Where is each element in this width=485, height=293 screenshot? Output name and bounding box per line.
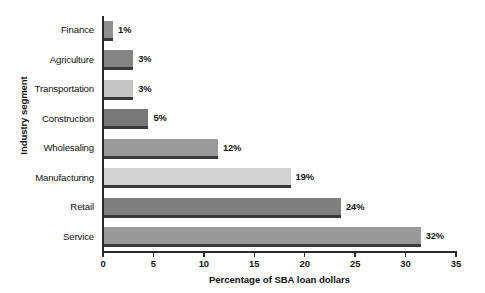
plot-area: 1%3%3%5%12%19%24%32% [103, 16, 456, 252]
bar-service [103, 227, 421, 247]
bar-fill [103, 109, 148, 126]
x-tick-20 [304, 252, 305, 257]
bar-transportation [103, 80, 133, 100]
x-tick-15 [254, 252, 255, 257]
bar-shadow [103, 215, 341, 218]
x-tick-label-5: 5 [151, 258, 156, 269]
bar-fill [103, 80, 133, 97]
bar-value-label-transportation: 3% [138, 84, 151, 94]
category-label-wholesaling: Wholesaling [0, 143, 94, 153]
x-tick-label-0: 0 [100, 258, 105, 269]
bar-construction [103, 109, 148, 129]
bar-shadow [103, 185, 291, 188]
bar-shadow [103, 67, 133, 70]
bar-value-label-wholesaling: 12% [223, 143, 241, 153]
y-axis-line [102, 16, 104, 252]
bar-agriculture [103, 50, 133, 70]
x-tick-25 [354, 252, 355, 257]
category-axis-labels: FinanceAgricultureTransportationConstruc… [0, 16, 99, 252]
category-label-manufacturing: Manufacturing [0, 173, 94, 183]
category-label-agriculture: Agriculture [0, 55, 94, 65]
bar-shadow [103, 126, 148, 129]
category-label-service: Service [0, 232, 94, 242]
x-tick-label-30: 30 [400, 258, 410, 269]
bar-value-label-service: 32% [426, 231, 444, 241]
bar-wholesaling [103, 139, 218, 159]
x-tick-10 [203, 252, 204, 257]
category-label-finance: Finance [0, 25, 94, 35]
x-axis-line [102, 251, 457, 253]
bar-value-label-construction: 5% [153, 113, 166, 123]
bar-shadow [103, 156, 218, 159]
bar-fill [103, 139, 218, 156]
x-tick-5 [153, 252, 154, 257]
bar-fill [103, 227, 421, 244]
category-label-transportation: Transportation [0, 84, 94, 94]
x-tick-label-35: 35 [451, 258, 461, 269]
x-tick-label-15: 15 [249, 258, 259, 269]
bar-shadow [103, 97, 133, 100]
bar-fill [103, 168, 291, 185]
bar-fill [103, 50, 133, 67]
bar-shadow [103, 244, 421, 247]
bar-value-label-manufacturing: 19% [296, 172, 314, 182]
bar-fill [103, 21, 113, 38]
category-label-construction: Construction [0, 114, 94, 124]
x-tick-label-25: 25 [350, 258, 360, 269]
x-axis-title: Percentage of SBA loan dollars [103, 274, 456, 285]
x-tick-0 [102, 252, 103, 257]
x-tick-label-20: 20 [299, 258, 309, 269]
x-tick-30 [405, 252, 406, 257]
bar-value-label-agriculture: 3% [138, 54, 151, 64]
bar-retail [103, 198, 341, 218]
bar-chart: Industry segment FinanceAgricultureTrans… [0, 0, 485, 293]
category-label-retail: Retail [0, 202, 94, 212]
bar-fill [103, 198, 341, 215]
x-tick-35 [455, 252, 456, 257]
bar-value-label-retail: 24% [346, 202, 364, 212]
x-tick-label-10: 10 [199, 258, 209, 269]
bar-shadow [103, 38, 113, 41]
bar-finance [103, 21, 113, 41]
bar-value-label-finance: 1% [118, 25, 131, 35]
bar-manufacturing [103, 168, 291, 188]
